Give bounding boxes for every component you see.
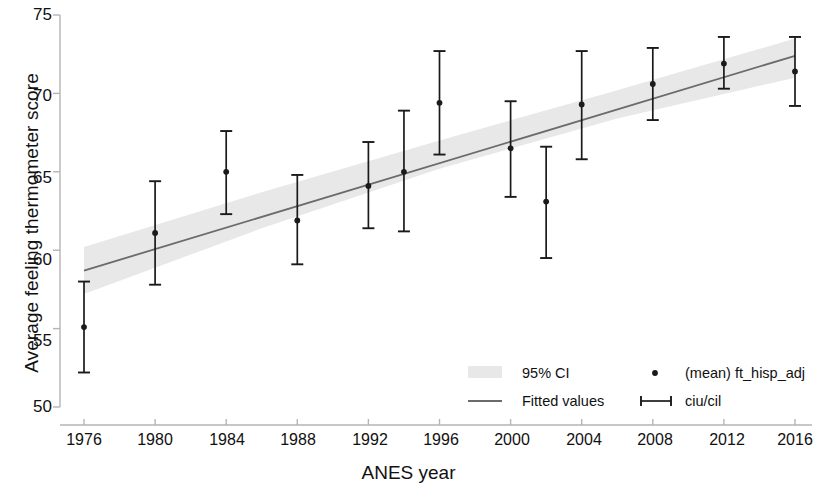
x-tick-label-2000: 2000	[482, 431, 542, 449]
x-tick-label-1984: 1984	[197, 431, 257, 449]
x-tick-label-2012: 2012	[697, 431, 757, 449]
legend-label-mean: (mean) ft_hisp_adj	[685, 365, 805, 381]
x-tick-label-1996: 1996	[411, 431, 471, 449]
legend-label-fitted: Fitted values	[522, 393, 604, 409]
legend-label-errorbar: ciu/cil	[685, 393, 721, 409]
chart-legend: 95% CIFitted values(mean) ft_hisp_adjciu…	[468, 365, 805, 409]
x-tick-label-1976: 1976	[54, 431, 114, 449]
y-tick-label-60: 60	[8, 250, 52, 270]
x-axis-title: ANES year	[0, 462, 817, 484]
legend-swatch-ci	[468, 366, 502, 378]
y-tick-label-65: 65	[8, 168, 52, 188]
x-tick-label-1988: 1988	[268, 431, 328, 449]
x-tick-label-2016: 2016	[765, 431, 817, 449]
y-tick-label-55: 55	[8, 331, 52, 351]
y-tick-label-75: 75	[8, 5, 52, 25]
y-tick-label-50: 50	[8, 397, 52, 417]
x-tick-label-2004: 2004	[554, 431, 614, 449]
x-tick-label-2008: 2008	[625, 431, 685, 449]
chart-figure: Average feeling thermometer score ANES y…	[0, 0, 817, 495]
legend-label-ci: 95% CI	[522, 365, 570, 381]
x-tick-label-1992: 1992	[340, 431, 400, 449]
x-tick-label-1980: 1980	[125, 431, 185, 449]
legend-swatch-mean	[652, 370, 658, 376]
y-tick-label-70: 70	[8, 86, 52, 106]
plot-area: 95% CIFitted values(mean) ft_hisp_adjciu…	[0, 0, 817, 495]
y-axis-title: Average feeling thermometer score	[21, 23, 43, 423]
